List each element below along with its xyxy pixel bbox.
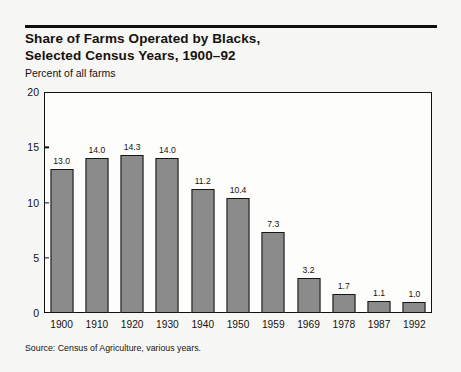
bar-group: 11.21940 — [191, 92, 214, 313]
plot-area: 05101520 13.0190014.0191014.3192014.0193… — [44, 92, 432, 313]
bar[interactable] — [332, 294, 355, 313]
bar-value-label: 1.1 — [373, 289, 385, 298]
y-axis-tick-mark — [44, 202, 49, 203]
x-axis-tick-label: 1940 — [191, 319, 214, 330]
y-axis-tick-label: 0 — [33, 308, 39, 319]
y-axis-tick-mark — [44, 147, 49, 148]
axis-subtitle: Percent of all farms — [25, 67, 115, 79]
bar-value-label: 14.3 — [124, 143, 141, 152]
y-axis-tick-label: 20 — [27, 87, 39, 98]
bar[interactable] — [368, 301, 391, 313]
title-line-1: Share of Farms Operated by Blacks, — [25, 31, 445, 48]
y-axis-tick-mark — [44, 257, 49, 258]
x-axis-tick-label: 1950 — [227, 319, 250, 330]
bar-group: 14.01910 — [85, 92, 108, 313]
x-axis-tick-label: 1920 — [121, 319, 144, 330]
x-axis-tick-label: 1930 — [156, 319, 179, 330]
y-axis-tick-label: 10 — [27, 197, 39, 208]
bar-group: 1.01992 — [403, 92, 426, 313]
bar-group: 10.41950 — [227, 92, 250, 313]
bar-group: 3.21969 — [297, 92, 320, 313]
page-title: Share of Farms Operated by Blacks, Selec… — [25, 31, 445, 64]
bar[interactable] — [121, 155, 144, 313]
bar-value-label: 13.0 — [53, 157, 70, 166]
x-axis-tick-label: 1959 — [262, 319, 285, 330]
x-axis-tick-label: 1969 — [297, 319, 320, 330]
bar-group: 7.31959 — [262, 92, 285, 313]
bar[interactable] — [227, 198, 250, 313]
header-rule — [25, 25, 437, 28]
bar-group: 1.11987 — [368, 92, 391, 313]
bar-group: 13.01900 — [50, 92, 73, 313]
x-axis-tick-label: 1978 — [332, 319, 355, 330]
bar[interactable] — [262, 232, 285, 313]
y-axis-tick-label: 5 — [33, 252, 39, 263]
title-line-2: Selected Census Years, 1900–92 — [25, 48, 445, 65]
bar-group: 1.71978 — [332, 92, 355, 313]
x-axis-tick-label: 1900 — [50, 319, 73, 330]
bar[interactable] — [297, 278, 320, 313]
x-axis-tick-label: 1987 — [368, 319, 391, 330]
y-axis-tick-label: 15 — [27, 142, 39, 153]
bar-group: 14.31920 — [121, 92, 144, 313]
source-note: Source: Census of Agriculture, various y… — [25, 343, 201, 353]
bar[interactable] — [156, 158, 179, 313]
bar-value-label: 14.0 — [89, 146, 106, 155]
bar[interactable] — [50, 169, 73, 313]
bar-value-label: 10.4 — [230, 186, 247, 195]
bar-value-label: 1.7 — [338, 282, 350, 291]
bar-value-label: 7.3 — [267, 220, 279, 229]
x-axis-tick-label: 1992 — [403, 319, 426, 330]
bar-value-label: 1.0 — [408, 290, 420, 299]
bar[interactable] — [191, 189, 214, 313]
x-axis-tick-label: 1910 — [86, 319, 109, 330]
bar[interactable] — [85, 158, 108, 313]
bar-value-label: 11.2 — [195, 177, 211, 186]
bar-value-label: 3.2 — [303, 266, 315, 275]
bar[interactable] — [403, 302, 426, 313]
bar-value-label: 14.0 — [159, 146, 176, 155]
bar-group: 14.01930 — [156, 92, 179, 313]
chart-figure: Share of Farms Operated by Blacks, Selec… — [0, 0, 461, 372]
